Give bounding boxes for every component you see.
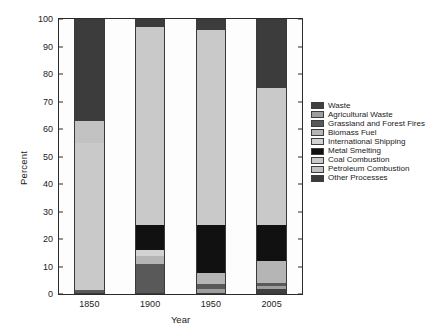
legend-label: International Shipping	[328, 138, 405, 146]
bar-segment[interactable]	[256, 19, 286, 88]
bar-segment[interactable]	[196, 30, 226, 225]
y-axis-tick-label: 30	[43, 207, 53, 216]
legend-label: Coal Combustion	[328, 156, 389, 164]
y-axis-tick-label: 100	[38, 15, 53, 24]
bar-segment[interactable]	[135, 256, 165, 264]
bar-segment[interactable]	[135, 225, 165, 250]
y-axis-tick-label: 0	[48, 290, 53, 299]
bar-segment[interactable]	[256, 88, 286, 226]
y-axis-tick-mark	[298, 184, 302, 185]
bar-segment[interactable]	[196, 225, 226, 273]
legend-swatch	[311, 102, 324, 109]
x-axis-tick-label: 2005	[262, 300, 282, 309]
bar-top-edge	[74, 19, 104, 20]
legend-swatch	[311, 175, 324, 182]
legend-label: Grassland and Forest Fires	[328, 120, 425, 128]
y-axis-tick-mark	[59, 156, 63, 157]
legend-label: Agricultural Waste	[328, 111, 393, 119]
bar-segment[interactable]	[135, 27, 165, 225]
legend-label: Biomass Fuel	[328, 129, 376, 137]
bar-segment[interactable]	[196, 284, 226, 288]
bar-segment[interactable]	[135, 264, 165, 294]
y-axis-title: Percent	[18, 151, 29, 185]
y-axis-tick-mark	[59, 129, 63, 130]
bar-segment[interactable]	[74, 19, 104, 121]
x-axis-tick-label: 1850	[79, 300, 99, 309]
bar-segment[interactable]	[256, 283, 286, 286]
legend-swatch	[311, 166, 324, 173]
y-axis-tick-mark	[59, 101, 63, 102]
y-axis-tick-mark	[298, 211, 302, 212]
chart-figure: Percent 0102030405060708090100 185019001…	[0, 0, 433, 336]
y-axis-tick-mark	[59, 211, 63, 212]
y-axis-tick-label: 20	[43, 235, 53, 244]
y-axis-tick-label: 70	[43, 97, 53, 106]
x-axis-tick-label: 1950	[201, 300, 221, 309]
bar-stack[interactable]	[256, 19, 286, 294]
y-axis-tick-mark	[298, 74, 302, 75]
x-axis-title: Year	[58, 314, 303, 325]
legend-swatch	[311, 138, 324, 145]
y-axis-tick-mark	[59, 46, 63, 47]
legend-swatch	[311, 111, 324, 118]
y-axis-tick-label: 90	[43, 42, 53, 51]
legend-label: Other Processes	[328, 174, 388, 182]
legend-item[interactable]: Other Processes	[311, 174, 431, 183]
legend-label: Metal Smelting	[328, 147, 381, 155]
legend: WasteAgricultural WasteGrassland and For…	[311, 101, 431, 183]
bar-segment[interactable]	[74, 143, 104, 290]
y-axis-tick-mark	[298, 156, 302, 157]
legend-swatch	[311, 148, 324, 155]
legend-item[interactable]: Agricultural Waste	[311, 110, 431, 119]
y-axis-tick-mark	[59, 266, 63, 267]
y-axis-tick-label: 50	[43, 152, 53, 161]
bar-top-edge	[256, 19, 286, 20]
bar-top-edge	[135, 19, 165, 20]
bar-segment[interactable]	[196, 273, 226, 284]
bar-segment[interactable]	[135, 19, 165, 27]
bar-segment[interactable]	[196, 19, 226, 30]
bar-segment[interactable]	[74, 290, 104, 294]
y-axis-tick-label: 10	[43, 262, 53, 271]
bar-segment[interactable]	[74, 121, 104, 143]
bar-stack[interactable]	[196, 19, 226, 294]
bar-segment[interactable]	[196, 289, 226, 295]
plot-area: 0102030405060708090100 1850190019502005	[58, 18, 303, 295]
bar-segment[interactable]	[256, 286, 286, 289]
bar-segment[interactable]	[256, 261, 286, 283]
y-axis-tick-mark	[59, 294, 63, 295]
bar-stack[interactable]	[135, 19, 165, 294]
legend-label: Waste	[328, 102, 350, 110]
x-axis-tick-label: 1900	[140, 300, 160, 309]
legend-swatch	[311, 157, 324, 164]
bar-segment[interactable]	[256, 225, 286, 261]
y-axis-tick-mark	[59, 239, 63, 240]
y-axis-tick-mark	[59, 184, 63, 185]
y-axis-tick-mark	[298, 266, 302, 267]
legend-label: Petroleum Combustion	[328, 165, 409, 173]
y-axis-tick-mark	[59, 74, 63, 75]
y-axis-tick-mark	[298, 46, 302, 47]
y-axis-tick-mark	[298, 129, 302, 130]
y-axis-tick-label: 60	[43, 125, 53, 134]
y-axis-tick-label: 40	[43, 180, 53, 189]
y-axis-tick-mark	[298, 19, 302, 20]
legend-item[interactable]: Biomass Fuel	[311, 128, 431, 137]
y-axis-tick-mark	[298, 239, 302, 240]
bar-stack[interactable]	[74, 19, 104, 294]
y-axis-tick-mark	[298, 294, 302, 295]
bar-segment[interactable]	[256, 289, 286, 295]
bar-top-edge	[196, 19, 226, 20]
y-axis-tick-label: 80	[43, 70, 53, 79]
y-axis-tick-mark	[59, 19, 63, 20]
bar-segment[interactable]	[135, 250, 165, 256]
y-axis-tick-mark	[298, 101, 302, 102]
legend-item[interactable]: Grassland and Forest Fires	[311, 119, 431, 128]
legend-item[interactable]: Waste	[311, 101, 431, 110]
legend-swatch	[311, 120, 324, 127]
legend-swatch	[311, 129, 324, 136]
